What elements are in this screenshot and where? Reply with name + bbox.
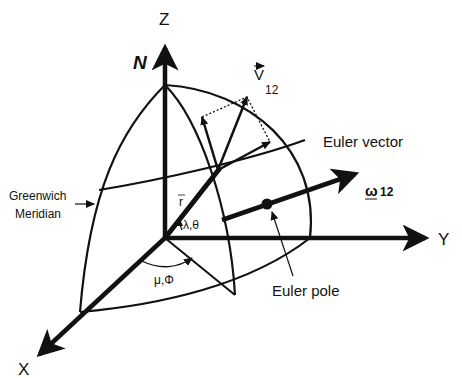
origin-to-equator-point	[165, 238, 235, 295]
y-axis-label: Y	[438, 230, 449, 249]
velocity-subscript: 12	[265, 83, 279, 97]
euler-pole-dot	[262, 199, 273, 210]
velocity-construction	[202, 97, 270, 170]
velocity-symbol: V	[254, 66, 264, 83]
omega-symbol: ω	[365, 182, 378, 199]
euler-pole-diagram: Z Y X N V 12 Euler vector ω 12 Greenwich…	[0, 0, 462, 378]
position-vector-label: r	[178, 195, 185, 209]
omega-subscript: 12	[380, 185, 394, 199]
lon-angle-arc	[142, 258, 192, 267]
x-axis	[40, 237, 166, 354]
euler-pole-label: Euler pole	[272, 282, 340, 299]
north-component	[202, 117, 218, 170]
greenwich-label-line1: Greenwich	[9, 189, 66, 203]
greenwich-label-line2: Meridian	[15, 207, 61, 221]
equator-arc	[80, 238, 310, 312]
lat-lon-point-label: λ,θ	[183, 218, 199, 232]
euler-vector-label: Euler vector	[323, 133, 403, 150]
lat-lon-pole-label: μ,Φ	[154, 273, 174, 287]
z-axis-label: Z	[159, 10, 169, 29]
euler-vector-shaft	[222, 174, 355, 220]
euler-vector-group	[222, 174, 355, 220]
omega-label: ω 12	[365, 182, 394, 199]
east-component	[218, 142, 270, 170]
north-pole-label: N	[133, 52, 148, 73]
euler-pole-pointer	[272, 212, 293, 276]
velocity-label: V 12	[254, 66, 279, 97]
r-symbol: r	[179, 195, 183, 209]
x-axis-label: X	[18, 360, 29, 378]
construction-lines	[165, 238, 235, 295]
